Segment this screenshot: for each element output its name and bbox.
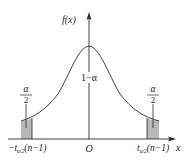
right-area-numerator: α — [151, 84, 157, 94]
left-tail-shaded-region — [21, 118, 32, 139]
left-critical-value-label: −tα/2(n−1) — [8, 143, 46, 154]
density-curve — [21, 46, 159, 121]
right-critical-value-label: tα/2(n−1) — [137, 143, 169, 154]
center-area-label: 1−α — [81, 72, 98, 83]
left-area-numerator: α — [24, 84, 30, 94]
y-axis-label: f(x) — [62, 14, 77, 26]
x-axis-label: x — [175, 142, 181, 153]
origin-label: O — [85, 143, 92, 154]
right-area-denominator: 2 — [151, 95, 156, 105]
left-area-denominator: 2 — [24, 95, 29, 105]
t-distribution-diagram: f(x) 1−α α 2 α 2 −tα/2(n−1) O tα/2(n−1) … — [0, 0, 190, 167]
